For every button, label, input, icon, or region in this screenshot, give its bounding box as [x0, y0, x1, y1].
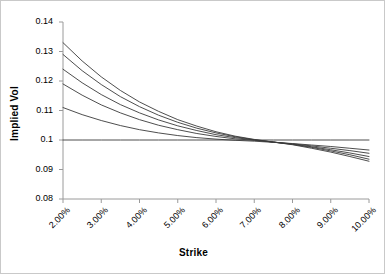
series-line-skew-1 [63, 108, 369, 150]
x-axis-title: Strike [1, 247, 385, 258]
series-line-skew-4 [63, 54, 369, 159]
axis-lines [59, 22, 369, 203]
series-line-skew-5 [63, 43, 369, 162]
chart-frame: Implied Vol 0.140.130.120.110.10.090.08 … [0, 0, 385, 274]
implied-vol-skew-chart [1, 1, 385, 274]
series-lines [63, 43, 369, 162]
series-line-skew-2 [63, 84, 369, 153]
